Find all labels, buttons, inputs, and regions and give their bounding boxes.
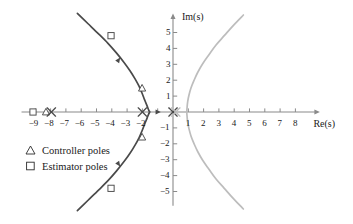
y-tick-label: 1	[166, 92, 171, 101]
legend-label-controller-poles: Controller poles	[42, 145, 110, 156]
x-tick-label: 1	[186, 119, 191, 128]
y-tick-label: −2	[160, 139, 170, 148]
legend-item-controller-poles: Controller poles	[22, 142, 110, 158]
y-tick-label: −3	[160, 155, 170, 164]
legend: Controller poles Estimator poles	[22, 142, 110, 174]
legend-item-estimator-poles: Estimator poles	[22, 158, 110, 174]
x-tick-label: −5	[90, 119, 100, 128]
x-tick-label: 6	[262, 119, 267, 128]
root-locus-plot	[0, 0, 353, 224]
triangle-icon	[22, 145, 38, 155]
x-axis-title: Re(s)	[313, 119, 335, 129]
figure-root: −9−8−7−6−5−4−3−212345678 −5−4−3−2−112345…	[0, 0, 353, 224]
x-tick-label: 8	[293, 119, 298, 128]
x-tick-label: −8	[44, 119, 54, 128]
x-tick-label: −4	[105, 119, 115, 128]
x-tick-label: 5	[247, 119, 252, 128]
x-tick-label: 4	[232, 119, 237, 128]
y-tick-label: 5	[166, 28, 171, 37]
x-tick-label: 7	[278, 119, 283, 128]
y-tick-label: 4	[166, 44, 171, 53]
x-tick-label: 2	[201, 119, 206, 128]
x-tick-label: 3	[216, 119, 221, 128]
x-tick-label: −9	[29, 119, 39, 128]
x-tick-label: −2	[136, 119, 146, 128]
legend-label-estimator-poles: Estimator poles	[42, 161, 108, 172]
y-tick-label: 2	[166, 76, 171, 85]
x-tick-label: −3	[121, 119, 131, 128]
y-tick-label: 3	[166, 60, 171, 69]
y-tick-label: −1	[160, 123, 170, 132]
y-tick-label: −4	[160, 171, 170, 180]
y-tick-label: −5	[160, 187, 170, 196]
x-tick-label: −6	[75, 119, 85, 128]
y-axis-title: Im(s)	[182, 12, 204, 22]
square-icon	[22, 161, 38, 171]
x-tick-label: −7	[59, 119, 69, 128]
